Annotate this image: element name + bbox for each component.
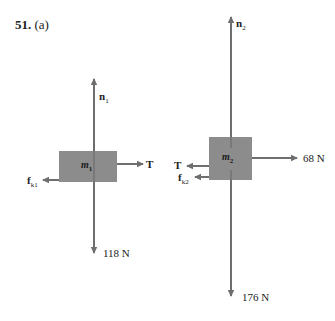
- weight-label-1: 118 N: [103, 248, 130, 259]
- free-body-diagrams: [0, 0, 335, 321]
- tension-label-2: T: [174, 160, 181, 171]
- tension-label-1: T: [146, 159, 153, 170]
- mass-label-1: m1: [81, 159, 92, 173]
- normal-force-label-1: n1: [99, 91, 109, 105]
- friction-label-2: fk2: [178, 172, 189, 186]
- weight-label-2: 176 N: [242, 292, 269, 303]
- applied-force-label-2: 68 N: [303, 153, 325, 164]
- diagram-2: [187, 17, 297, 296]
- normal-force-label-2: n2: [236, 18, 246, 32]
- mass-label-2: m2: [222, 151, 233, 165]
- friction-label-1: fk1: [27, 175, 38, 189]
- diagram-1: [43, 79, 143, 253]
